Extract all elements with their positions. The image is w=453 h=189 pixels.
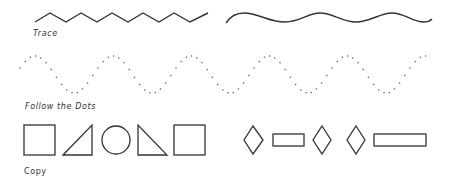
dot [87, 82, 89, 84]
copy-square-1 [24, 125, 55, 155]
dot [71, 92, 73, 94]
dot [118, 57, 120, 59]
dot [149, 92, 151, 94]
dot [222, 89, 224, 91]
trace-label: Trace [33, 29, 58, 38]
dot [295, 84, 297, 86]
dot [399, 82, 401, 84]
dot [274, 57, 276, 59]
dot [279, 62, 281, 64]
dotted-wave [19, 55, 426, 93]
dot [264, 57, 266, 59]
dot [170, 75, 172, 77]
dot [108, 57, 110, 59]
dot [253, 67, 255, 69]
dot [316, 88, 318, 90]
dot [19, 67, 21, 69]
copy-rectangle [273, 134, 304, 146]
zigzag-line [35, 13, 208, 22]
dot [248, 75, 250, 77]
dot [232, 92, 234, 94]
dot [160, 88, 162, 90]
dot [336, 61, 338, 63]
dot [50, 69, 52, 71]
dot [409, 67, 411, 69]
dot [310, 92, 312, 94]
dot [206, 69, 208, 71]
dot [45, 62, 47, 64]
dot [378, 89, 380, 91]
copy-label: Copy [24, 167, 47, 176]
dot [175, 67, 177, 69]
dot [404, 75, 406, 77]
dot [420, 57, 422, 59]
dot [258, 61, 260, 63]
dot [347, 55, 349, 57]
copy-right-triangle-mirrored [138, 125, 167, 155]
dot [394, 88, 396, 90]
dot [144, 89, 146, 91]
copy-right-triangle [63, 125, 92, 155]
dot [40, 57, 42, 59]
dot [76, 92, 78, 94]
dot [290, 77, 292, 79]
dot [305, 92, 307, 94]
dot [357, 62, 359, 64]
dot [196, 57, 198, 59]
dot [113, 55, 115, 57]
dot [66, 89, 68, 91]
dot [212, 77, 214, 79]
dot [425, 55, 427, 57]
dot [92, 75, 94, 77]
dot [56, 77, 58, 79]
copy-diamond-3 [347, 126, 365, 154]
dot [227, 92, 229, 94]
dot [368, 77, 370, 79]
dot [24, 61, 26, 63]
dot [383, 92, 385, 94]
dot [134, 77, 136, 79]
dot [321, 82, 323, 84]
dot [191, 55, 193, 57]
follow-dots-label: Follow the Dots [25, 102, 96, 111]
copy-long-rectangle [374, 134, 426, 146]
wavy-line [226, 13, 432, 23]
dot [238, 88, 240, 90]
copy-diamond-2 [313, 126, 331, 154]
dot [97, 67, 99, 69]
dot [269, 55, 271, 57]
dot [154, 92, 156, 94]
dot [217, 84, 219, 86]
dot [243, 82, 245, 84]
dot [331, 67, 333, 69]
worksheet-drawing [0, 0, 453, 189]
dot [165, 82, 167, 84]
dot [82, 88, 84, 90]
dot [123, 62, 125, 64]
dot [326, 75, 328, 77]
dot [300, 89, 302, 91]
dot [35, 55, 37, 57]
dot [139, 84, 141, 86]
copy-square-2 [174, 125, 205, 155]
dot [30, 57, 32, 59]
dot [352, 57, 354, 59]
dot [414, 61, 416, 63]
dot [128, 69, 130, 71]
dot [373, 84, 375, 86]
dot [388, 92, 390, 94]
dot [180, 61, 182, 63]
copy-diamond-1 [244, 126, 263, 154]
dot [61, 84, 63, 86]
dot [362, 69, 364, 71]
dot [186, 57, 188, 59]
dot [342, 57, 344, 59]
dot [284, 69, 286, 71]
dot [102, 61, 104, 63]
dot [201, 62, 203, 64]
copy-circle [102, 126, 130, 154]
